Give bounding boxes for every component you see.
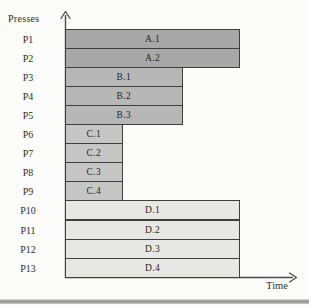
y-axis-tick-label: P5 <box>0 109 56 120</box>
y-axis-tick-label: P4 <box>0 90 56 101</box>
bar-job-label: D.2 <box>145 225 160 235</box>
x-axis-title: Time <box>257 280 297 291</box>
gantt-bar: A.2 <box>65 48 240 68</box>
bar-job-label: C.2 <box>86 148 101 158</box>
y-axis-tick-label: P8 <box>0 167 56 178</box>
bar-job-label: D.4 <box>145 263 160 273</box>
y-axis-tick-label: P11 <box>0 224 56 235</box>
bar-job-label: B.3 <box>116 110 131 120</box>
bar-job-label: B.1 <box>116 72 131 82</box>
gantt-bar: C.1 <box>65 124 123 144</box>
bar-job-label: C.3 <box>86 167 101 177</box>
gantt-bar: B.2 <box>65 86 183 106</box>
gantt-bar: D.4 <box>65 258 240 278</box>
y-axis-title: Presses <box>8 13 40 24</box>
bar-job-label: B.2 <box>116 91 131 101</box>
page-bottom-rule <box>0 299 309 304</box>
gantt-bar: D.1 <box>65 200 240 220</box>
bar-job-label: D.1 <box>145 205 160 215</box>
gantt-bar: C.4 <box>65 181 123 201</box>
bar-job-label: A.2 <box>145 53 160 63</box>
y-axis-tick-label: P13 <box>0 262 56 273</box>
y-axis-tick-label: P2 <box>0 52 56 63</box>
gantt-bar: B.3 <box>65 105 183 125</box>
bar-job-label: C.1 <box>86 129 101 139</box>
y-axis-tick-label: P10 <box>0 205 56 216</box>
bar-job-label: C.4 <box>86 186 101 196</box>
y-axis-tick-label: P9 <box>0 186 56 197</box>
gantt-bar: B.1 <box>65 67 183 87</box>
y-axis-tick-label: P7 <box>0 148 56 159</box>
gantt-chart-figure: Presses P1P2P3P4P5P6P7P8P9P10P11P12P13 A… <box>0 0 309 307</box>
bar-job-label: A.1 <box>145 34 160 44</box>
y-axis-tick-label: P3 <box>0 71 56 82</box>
gantt-bar: C.2 <box>65 143 123 163</box>
y-axis-tick-label: P12 <box>0 243 56 254</box>
gantt-bar: A.1 <box>65 29 240 49</box>
gantt-bar: D.2 <box>65 220 240 240</box>
gantt-bar: D.3 <box>65 239 240 259</box>
bar-job-label: D.3 <box>145 244 160 254</box>
gantt-bar: C.3 <box>65 162 123 182</box>
y-axis-tick-label: P6 <box>0 129 56 140</box>
y-axis-tick-label: P1 <box>0 33 56 44</box>
